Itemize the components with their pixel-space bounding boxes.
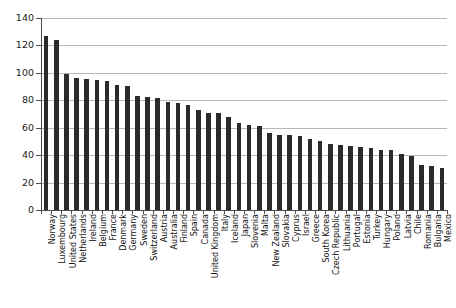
bar bbox=[399, 154, 404, 210]
bar bbox=[298, 136, 303, 210]
x-tick-label: Norway bbox=[49, 214, 57, 244]
x-tick-label: Canada bbox=[202, 214, 210, 244]
x-tick-label: Poland bbox=[394, 214, 402, 241]
bar bbox=[318, 141, 323, 210]
bar bbox=[379, 150, 384, 210]
bar bbox=[389, 150, 394, 210]
bar bbox=[95, 80, 100, 210]
bar bbox=[440, 168, 445, 211]
bar bbox=[308, 139, 313, 210]
x-tick-label: Czech Republic bbox=[333, 214, 341, 275]
x-tick-label: Turkey bbox=[374, 214, 382, 240]
x-tick-label: Estonia bbox=[364, 214, 372, 243]
x-tick-label: Switzerland bbox=[151, 214, 159, 261]
bar bbox=[358, 147, 363, 210]
bar bbox=[419, 165, 424, 210]
x-tick-label: Chile bbox=[415, 214, 423, 234]
y-tick-label: 100 bbox=[0, 68, 34, 78]
x-tick-label: Malta bbox=[262, 214, 270, 236]
x-tick-label: Ireland bbox=[90, 214, 98, 242]
bar bbox=[84, 79, 89, 210]
bar bbox=[247, 125, 252, 210]
bar bbox=[348, 146, 353, 210]
x-tick-label: Japan bbox=[242, 214, 250, 236]
bar bbox=[277, 135, 282, 210]
y-tick-label: 120 bbox=[0, 40, 34, 50]
bar bbox=[369, 148, 374, 210]
bar bbox=[54, 40, 59, 210]
bar bbox=[226, 117, 231, 210]
y-tick-label: 140 bbox=[0, 13, 34, 23]
bar bbox=[115, 85, 120, 210]
bar bbox=[257, 126, 262, 210]
bar bbox=[328, 144, 333, 211]
x-tick-label: France bbox=[110, 214, 118, 241]
x-tick-label: Australia bbox=[171, 214, 179, 249]
bar bbox=[206, 113, 211, 210]
bar bbox=[145, 97, 150, 210]
bar bbox=[105, 81, 110, 210]
bar bbox=[135, 96, 140, 210]
y-tick-label: 80 bbox=[0, 95, 34, 105]
x-tick-label: United Kingdom bbox=[212, 214, 220, 278]
bar bbox=[237, 123, 242, 210]
bar bbox=[74, 78, 79, 210]
y-axis-labels: 140 120 100 80 60 40 20 0 bbox=[0, 0, 34, 308]
x-tick-label: United States bbox=[70, 214, 78, 268]
y-tick-label: 40 bbox=[0, 150, 34, 160]
y-tick-label: 60 bbox=[0, 123, 34, 133]
x-tick-label: South Korea bbox=[323, 214, 331, 262]
bar bbox=[338, 145, 343, 210]
x-tick-label: Iceland bbox=[232, 214, 240, 243]
x-tick-label: Finland bbox=[181, 214, 189, 243]
x-tick-label: Denmark bbox=[120, 214, 128, 251]
x-tick-label: Slovenia bbox=[252, 214, 260, 248]
x-tick-label: Bulgaria bbox=[435, 214, 443, 247]
x-tick-label: Slovakia bbox=[283, 214, 291, 248]
x-tick-label: Italy bbox=[222, 214, 230, 231]
x-tick-label: Sweden bbox=[141, 214, 149, 246]
x-tick-label: New Zealand bbox=[273, 214, 281, 267]
bar bbox=[287, 135, 292, 210]
bar bbox=[429, 166, 434, 210]
bar bbox=[166, 102, 171, 210]
x-tick-label: Belgium bbox=[100, 214, 108, 247]
bar bbox=[196, 110, 201, 210]
x-tick-label: Greece bbox=[313, 214, 321, 242]
bar bbox=[176, 103, 181, 210]
x-tick-label: Netherlands bbox=[80, 214, 88, 263]
y-tick-label: 0 bbox=[0, 205, 34, 215]
bar bbox=[216, 113, 221, 210]
bar bbox=[64, 74, 69, 210]
bar-series bbox=[41, 18, 447, 210]
x-axis-labels: NorwayLuxembourgUnited StatesNetherlands… bbox=[41, 214, 447, 308]
x-tick-label: Spain bbox=[191, 214, 199, 236]
x-tick-label: Latvia bbox=[405, 214, 413, 238]
bar bbox=[267, 133, 272, 210]
x-tick-label: Hungary bbox=[384, 214, 392, 248]
bar bbox=[186, 105, 191, 210]
bar bbox=[125, 86, 130, 210]
x-tick-label: Mexico bbox=[445, 214, 453, 242]
bar-chart: 140 120 100 80 60 40 20 0 NorwayLuxembou… bbox=[0, 0, 456, 308]
bar bbox=[409, 156, 414, 210]
bar bbox=[44, 36, 49, 210]
x-tick-label: Germany bbox=[130, 214, 138, 251]
x-tick-label: Cyprus bbox=[293, 214, 301, 242]
x-tick-label: Portugal bbox=[354, 214, 362, 247]
y-tick-label: 20 bbox=[0, 178, 34, 188]
x-tick-label: Israel bbox=[303, 214, 311, 236]
bar bbox=[155, 98, 160, 210]
x-tick-label: Lithuania bbox=[344, 214, 352, 251]
x-tick-label: Austria bbox=[161, 214, 169, 242]
x-tick-label: Romania bbox=[425, 214, 433, 249]
x-tick-label: Luxembourg bbox=[59, 214, 67, 264]
